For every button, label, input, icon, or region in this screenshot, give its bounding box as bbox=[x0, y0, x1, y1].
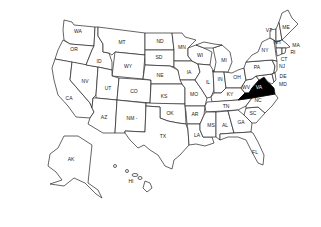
label-sd: SD bbox=[156, 54, 163, 60]
label-ar: AR bbox=[192, 111, 199, 117]
states-layer bbox=[48, 10, 298, 198]
label-in: IN bbox=[218, 76, 223, 82]
state-ak[interactable] bbox=[48, 136, 102, 198]
label-oh: OH bbox=[233, 74, 241, 80]
label-ct: CT bbox=[281, 56, 288, 62]
label-mn: MN bbox=[178, 44, 186, 50]
label-il: IL bbox=[206, 79, 210, 85]
label-vt: VT bbox=[266, 27, 272, 33]
label-ca: CA bbox=[66, 95, 74, 101]
label-nm: NM - bbox=[127, 115, 138, 121]
label-az: AZ bbox=[101, 114, 107, 120]
state-ks[interactable] bbox=[150, 84, 185, 104]
label-md: MD bbox=[279, 81, 287, 87]
label-ri: RI bbox=[291, 49, 296, 55]
label-tn: TN bbox=[223, 103, 230, 109]
label-mt: MT bbox=[118, 39, 125, 45]
label-nh: NH bbox=[273, 39, 281, 45]
label-ut: UT bbox=[105, 85, 112, 91]
label-ky: KY bbox=[227, 91, 234, 97]
label-nc: NC bbox=[254, 97, 262, 103]
label-ok: OK bbox=[166, 110, 174, 116]
label-sc: SC bbox=[250, 110, 257, 116]
label-wi: WI bbox=[197, 52, 203, 58]
label-tx: TX bbox=[160, 133, 167, 139]
label-ma: MA bbox=[292, 42, 300, 48]
label-nv: NV bbox=[82, 78, 90, 84]
label-nd: ND bbox=[156, 38, 164, 44]
label-wa: WA bbox=[74, 28, 83, 34]
label-mi: MI bbox=[221, 57, 227, 63]
label-ne: NE bbox=[157, 72, 165, 78]
label-fl: FL bbox=[252, 149, 258, 155]
label-ga: GA bbox=[237, 119, 245, 125]
label-ks: KS bbox=[161, 93, 168, 99]
label-id: ID bbox=[97, 58, 102, 64]
state-ct[interactable] bbox=[276, 48, 282, 56]
label-la: LA bbox=[194, 132, 201, 138]
state-ri[interactable] bbox=[282, 48, 286, 54]
label-or: OR bbox=[70, 46, 78, 52]
label-ny: NY bbox=[262, 47, 270, 53]
label-me: ME bbox=[282, 24, 290, 30]
label-ms: MS bbox=[207, 122, 215, 128]
label-de: DE bbox=[280, 73, 288, 79]
label-va: VA bbox=[256, 84, 263, 90]
label-al: AL bbox=[222, 122, 228, 128]
label-ia: IA bbox=[187, 69, 192, 75]
label-wy: WY bbox=[124, 63, 133, 69]
label-ak: AK bbox=[68, 156, 75, 162]
label-mo: MO bbox=[190, 91, 198, 97]
label-co: CO bbox=[130, 88, 138, 94]
label-hi: HI bbox=[129, 178, 134, 184]
label-pa: PA bbox=[254, 64, 261, 70]
label-wv: WV bbox=[242, 84, 251, 90]
us-map: WA OR CA NV ID MT WY UT CO AZ NM - ND SD… bbox=[0, 0, 321, 227]
label-nj: NJ bbox=[279, 63, 286, 69]
